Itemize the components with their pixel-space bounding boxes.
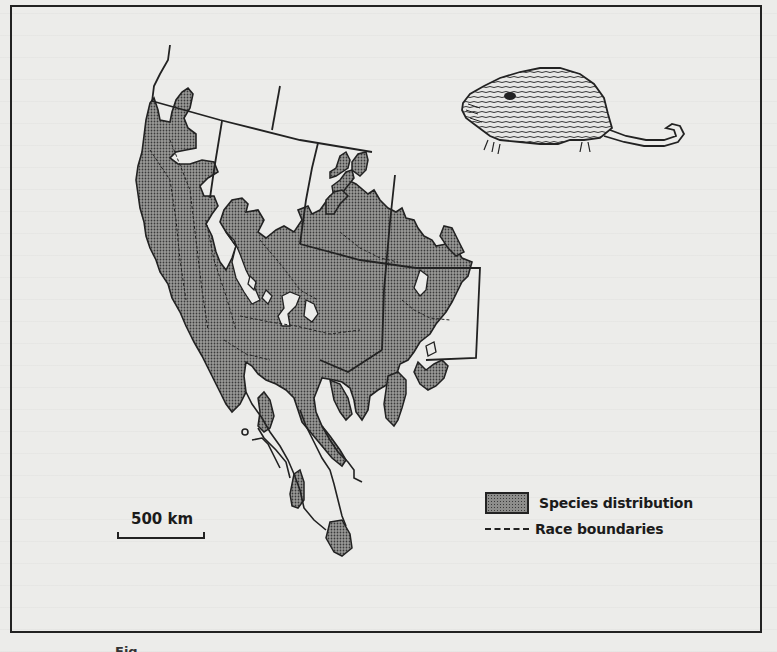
- stipple-swatch-icon: [485, 492, 529, 514]
- scale-bar-line: [117, 532, 205, 539]
- scale-bar: 500 km: [117, 510, 207, 539]
- legend-item-race-boundaries: Race boundaries: [485, 516, 693, 542]
- legend-item-species-distribution: Species distribution: [485, 490, 693, 516]
- dashed-line-icon: [485, 528, 529, 530]
- map-legend: Species distribution Race boundaries: [485, 490, 693, 542]
- legend-label: Species distribution: [539, 495, 693, 511]
- figure-caption: Fig.: [115, 641, 143, 652]
- legend-label: Race boundaries: [535, 521, 663, 537]
- scale-label: 500 km: [131, 510, 207, 528]
